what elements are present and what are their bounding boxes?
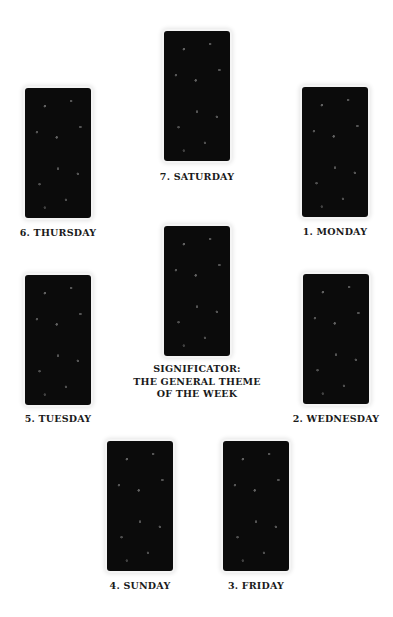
label-monday: 1. MONDAY [285,226,385,239]
label-thursday: 6. THURSDAY [8,227,108,240]
card-wednesday[interactable] [303,274,369,404]
card-friday[interactable] [223,441,289,571]
label-tuesday: 5. TUESDAY [8,413,108,426]
label-significator-line2: THE GENERAL THEME [122,376,272,389]
label-significator-line3: OF THE WEEK [122,388,272,401]
label-sunday: 4. SUNDAY [90,580,190,593]
card-significator[interactable] [164,226,230,356]
card-tuesday[interactable] [25,275,91,405]
label-friday: 3. FRIDAY [206,580,306,593]
card-thursday[interactable] [25,88,91,218]
card-sunday[interactable] [107,441,173,571]
card-saturday[interactable] [164,31,230,161]
label-significator: SIGNIFICATOR: THE GENERAL THEME OF THE W… [122,363,272,401]
card-monday[interactable] [302,87,368,217]
label-saturday: 7. SATURDAY [147,171,247,184]
label-significator-line1: SIGNIFICATOR: [122,363,272,376]
label-wednesday: 2. WEDNESDAY [286,413,386,426]
